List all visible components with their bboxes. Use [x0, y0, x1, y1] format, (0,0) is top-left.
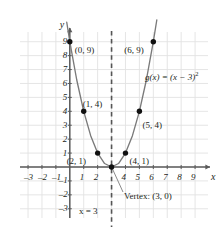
y-tick-label: 3 [63, 121, 68, 130]
data-point [109, 164, 114, 169]
point-label: (4, 1) [129, 157, 149, 166]
y-tick-label: 4 [63, 107, 68, 116]
axis-of-symmetry-label: x = 3 [79, 207, 98, 216]
y-tick-label: 2 [63, 135, 68, 144]
point-label: (2, 1) [67, 157, 87, 166]
x-tick-label: –3 [24, 173, 33, 182]
x-tick-label: 9 [191, 173, 196, 182]
y-tick-label: –2 [59, 190, 68, 199]
x-tick-label: 1 [80, 173, 85, 182]
y-tick-label: –3 [59, 204, 68, 213]
x-tick-label: –2 [38, 173, 47, 182]
x-tick-label: 6 [149, 173, 154, 182]
y-tick-label: 9 [63, 37, 68, 46]
x-tick-label: 7 [163, 173, 168, 182]
data-point [123, 150, 128, 155]
graph-figure: y x g(x) = (x − 3)2 Vertex: (3, 0) x = 3… [0, 0, 223, 231]
y-tick-label: –1 [59, 176, 68, 185]
y-tick-label: 6 [63, 79, 68, 88]
data-point [137, 109, 142, 114]
gridlines [20, 32, 208, 218]
parabola-plot [0, 0, 223, 231]
point-label: (0, 9) [75, 46, 95, 55]
data-point [95, 150, 100, 155]
x-tick-label: 4 [121, 173, 126, 182]
function-label-text: g(x) = (x − 3) [145, 72, 195, 82]
y-axis-label: y [60, 20, 64, 30]
point-label: (6, 9) [124, 46, 144, 55]
x-tick-label: 5 [135, 173, 140, 182]
data-point [67, 39, 72, 44]
vertex-label: Vertex: (3, 0) [124, 192, 172, 201]
x-axis-label: x [211, 172, 215, 182]
data-point [151, 39, 156, 44]
data-point [81, 109, 86, 114]
point-label: (5, 4) [142, 121, 162, 130]
y-tick-label: 5 [63, 93, 68, 102]
y-tick-label: 8 [63, 51, 68, 60]
x-tick-label: 8 [177, 173, 182, 182]
point-label: (1, 4) [83, 100, 103, 109]
function-label-exponent: 2 [195, 70, 198, 77]
function-label: g(x) = (x − 3)2 [145, 71, 198, 82]
x-tick-label: 2 [94, 173, 99, 182]
y-tick-label: 7 [63, 65, 68, 74]
